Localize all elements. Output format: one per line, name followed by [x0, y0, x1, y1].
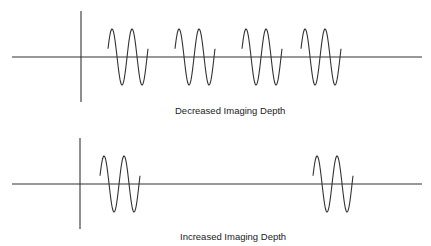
increased-depth-label: Increased Imaging Depth	[180, 231, 286, 242]
decreased-depth-diagram	[12, 11, 422, 102]
decreased-depth-label: Decreased Imaging Depth	[175, 105, 285, 116]
increased-depth-diagram	[12, 138, 422, 229]
pulse-diagram	[0, 0, 431, 246]
